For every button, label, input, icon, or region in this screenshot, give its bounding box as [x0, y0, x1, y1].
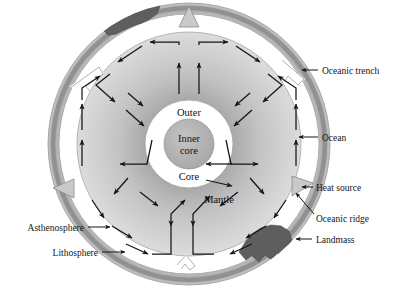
- callout-heat-source-label: Heat source: [316, 183, 361, 193]
- label-inner-core-line1: Inner: [178, 133, 201, 144]
- callout-oceanic-trench-label: Oceanic trench: [322, 66, 379, 76]
- callout-landmass-label: Landmass: [316, 235, 355, 245]
- label-outer: Outer: [177, 107, 201, 118]
- callout-lithosphere-label: Lithosphere: [53, 248, 98, 258]
- label-inner-core-line2: core: [180, 145, 198, 156]
- callout-oceanic-ridge-label: Oceanic ridge: [316, 214, 369, 224]
- callout-ocean-label: Ocean: [322, 133, 347, 143]
- diagram-canvas: Outer Inner core Core Mantle Oceanic tre…: [0, 0, 402, 289]
- label-mantle: Mantle: [204, 194, 234, 205]
- earth-cross-section-figure: Outer Inner core Core Mantle Oceanic tre…: [0, 0, 402, 289]
- label-core: Core: [179, 171, 200, 182]
- callout-asthenosphere-label: Asthenosphere: [28, 223, 84, 233]
- inner-core-layer: [164, 119, 214, 169]
